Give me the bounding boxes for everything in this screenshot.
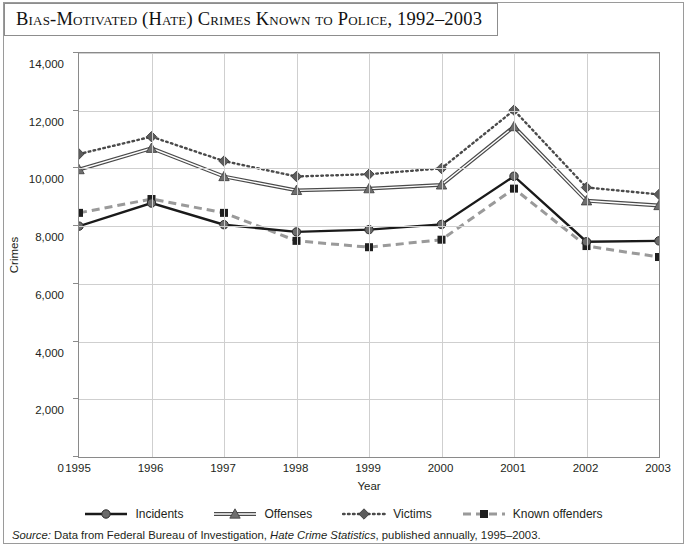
y-axis-tick <box>73 341 78 342</box>
y-axis-tick <box>73 398 78 399</box>
x-axis-tick-label: 1998 <box>283 462 309 474</box>
diamond-dotted-legend-icon <box>342 507 386 521</box>
x-axis-title: Year <box>78 480 660 492</box>
y-axis-tick <box>73 167 78 168</box>
data-point-marker <box>102 510 110 518</box>
source-note: Source: Data from Federal Bureau of Inve… <box>12 529 672 541</box>
y-axis-tick <box>73 283 78 284</box>
x-axis-tick-label: 2002 <box>573 462 599 474</box>
y-axis-tick-label: 2,000 <box>35 404 64 416</box>
figure-root: Bias-Motivated (Hate) Crimes Known to Po… <box>0 0 687 547</box>
legend-item-victims[interactable]: Victims <box>342 507 431 521</box>
y-axis-tick-label: 4,000 <box>35 347 64 359</box>
gridline-vertical <box>297 53 298 457</box>
y-axis-tick <box>73 456 78 457</box>
data-point-marker <box>79 209 83 217</box>
chart-legend: IncidentsOffensesVictimsKnown offenders <box>0 503 687 525</box>
legend-item-offenses[interactable]: Offenses <box>213 507 312 521</box>
legend-item-known-offenders[interactable]: Known offenders <box>462 507 603 521</box>
legend-label: Offenses <box>264 507 312 521</box>
gridline-vertical <box>514 53 515 457</box>
triangle-double-legend-icon <box>213 507 257 521</box>
legend-label: Victims <box>393 507 431 521</box>
y-axis-tick <box>73 110 78 111</box>
legend-label: Known offenders <box>513 507 603 521</box>
y-axis-tick-label: 0 <box>58 462 64 474</box>
x-axis-tick-label: 2003 <box>645 462 671 474</box>
x-axis-tick-labels: 199519961997199819992000200120022003 <box>78 462 660 480</box>
source-publication-title: Hate Crime Statistics <box>270 529 375 541</box>
x-axis-tick-label: 1995 <box>65 462 91 474</box>
source-prefix: Source: <box>12 529 51 541</box>
legend-label: Incidents <box>135 507 183 521</box>
source-text-before: Data from Federal Bureau of Investigatio… <box>51 529 270 541</box>
figure-title-box: Bias-Motivated (Hate) Crimes Known to Po… <box>4 3 498 36</box>
data-point-marker <box>655 253 659 261</box>
gridline-vertical <box>587 53 588 457</box>
y-axis-tick-label: 10,000 <box>29 173 64 185</box>
y-axis-tick-label: 6,000 <box>35 289 64 301</box>
y-axis-tick-label: 14,000 <box>29 58 64 70</box>
gridline-vertical <box>152 53 153 457</box>
gridline-vertical <box>224 53 225 457</box>
x-axis-tick-label: 1997 <box>210 462 236 474</box>
source-text-after: , published annually, 1995–2003. <box>376 529 541 541</box>
y-axis-tick-label: 8,000 <box>35 231 64 243</box>
chart-area: Crimes 02,0004,0006,0008,00010,00012,000… <box>0 40 687 500</box>
y-axis-tick-label: 12,000 <box>29 116 64 128</box>
data-point-marker <box>359 509 369 519</box>
legend-item-incidents[interactable]: Incidents <box>84 507 183 521</box>
data-point-marker <box>655 237 659 245</box>
x-axis-tick-label: 2001 <box>500 462 526 474</box>
data-point-marker <box>480 510 488 518</box>
y-axis-tick <box>73 52 78 53</box>
gridline-vertical <box>369 53 370 457</box>
plot-area <box>78 52 660 458</box>
x-axis-tick-label: 1999 <box>355 462 381 474</box>
data-point-marker <box>654 189 659 199</box>
square-dashed-legend-icon <box>462 507 506 521</box>
y-axis-tick-labels: 02,0004,0006,0008,00010,00012,00014,000 <box>0 52 72 458</box>
circle-solid-legend-icon <box>84 507 128 521</box>
x-axis-tick-label: 1996 <box>138 462 164 474</box>
data-point-marker <box>79 149 84 159</box>
x-axis-tick-label: 2000 <box>428 462 454 474</box>
page-title: Bias-Motivated (Hate) Crimes Known to Po… <box>5 9 482 30</box>
gridline-vertical <box>442 53 443 457</box>
y-axis-tick <box>73 225 78 226</box>
